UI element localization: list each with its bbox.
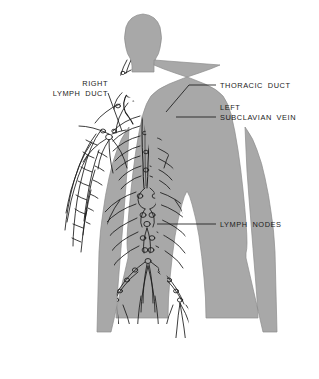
leader-right-lymph-duct — [108, 93, 122, 131]
label-lymph-nodes: LYMPH NODES — [220, 220, 282, 229]
label-left-subclavian-vein: LEFT SUBCLAVIAN VEIN — [220, 103, 296, 122]
label-right-lymph-duct-line1: RIGHT — [82, 79, 108, 88]
label-left-subclavian-vein-line2: SUBCLAVIAN VEIN — [220, 113, 296, 122]
label-right-lymph-duct: RIGHT LYMPH DUCT — [53, 79, 108, 98]
label-thoracic-duct-line1: THORACIC DUCT — [220, 81, 291, 90]
lymphatic-system-figure: RIGHT LYMPH DUCT THORACIC DUCT LEFT SUBC… — [0, 0, 319, 379]
label-lymph-nodes-line1: LYMPH NODES — [220, 220, 282, 229]
label-thoracic-duct: THORACIC DUCT — [220, 81, 291, 90]
diagram-canvas: RIGHT LYMPH DUCT THORACIC DUCT LEFT SUBC… — [0, 0, 319, 379]
body-silhouette — [97, 14, 277, 332]
label-right-lymph-duct-line2: LYMPH DUCT — [53, 89, 108, 98]
label-left-subclavian-vein-line1: LEFT — [220, 103, 240, 112]
axillary-node — [106, 134, 113, 139]
